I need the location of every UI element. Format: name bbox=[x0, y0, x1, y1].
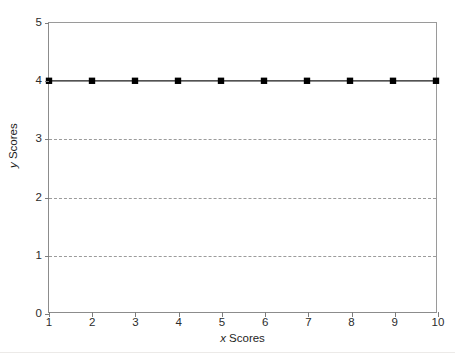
y-tick-mark-1 bbox=[45, 256, 49, 257]
data-point-marker bbox=[347, 78, 353, 84]
data-point-marker bbox=[433, 78, 439, 84]
x-tick-label-7: 7 bbox=[305, 317, 311, 329]
y-tick-mark-2 bbox=[45, 198, 49, 199]
y-axis-variable: y bbox=[7, 162, 19, 168]
page-rule bbox=[0, 352, 455, 353]
data-point-marker bbox=[175, 78, 181, 84]
x-tick-label-4: 4 bbox=[175, 317, 181, 329]
x-axis-title-text: Scores bbox=[226, 332, 265, 344]
data-point-marker bbox=[218, 78, 224, 84]
x-axis-title: x Scores bbox=[48, 333, 437, 345]
data-point-marker bbox=[89, 78, 95, 84]
y-tick-label-3: 3 bbox=[36, 134, 42, 146]
y-tick-label-0: 0 bbox=[36, 308, 42, 320]
y-tick-label-4: 4 bbox=[36, 75, 42, 87]
gridline-y-2 bbox=[49, 198, 436, 199]
data-point-marker bbox=[261, 78, 267, 84]
y-tick-label-1: 1 bbox=[36, 250, 42, 262]
plot-area: 01234512345678910 bbox=[48, 22, 437, 313]
x-tick-label-10: 10 bbox=[432, 317, 445, 329]
x-tick-label-6: 6 bbox=[262, 317, 268, 329]
y-axis-title-text: Scores bbox=[7, 123, 19, 162]
x-tick-label-3: 3 bbox=[132, 317, 138, 329]
y-tick-mark-5 bbox=[45, 23, 49, 24]
series-line-layer bbox=[49, 23, 436, 312]
x-tick-label-9: 9 bbox=[392, 317, 398, 329]
chart-figure: 01234512345678910 y Scores x Scores bbox=[0, 0, 455, 361]
y-axis-title: y Scores bbox=[8, 123, 20, 168]
gridline-y-3 bbox=[49, 139, 436, 140]
data-point-marker bbox=[304, 78, 310, 84]
x-tick-label-2: 2 bbox=[89, 317, 95, 329]
gridline-y-1 bbox=[49, 256, 436, 257]
y-tick-label-2: 2 bbox=[36, 192, 42, 204]
y-tick-mark-4 bbox=[45, 81, 49, 82]
y-tick-label-5: 5 bbox=[36, 17, 42, 29]
x-tick-label-1: 1 bbox=[46, 317, 52, 329]
data-point-marker bbox=[132, 78, 138, 84]
y-tick-mark-3 bbox=[45, 139, 49, 140]
x-tick-label-8: 8 bbox=[348, 317, 354, 329]
data-point-marker bbox=[390, 78, 396, 84]
x-tick-label-5: 5 bbox=[219, 317, 225, 329]
